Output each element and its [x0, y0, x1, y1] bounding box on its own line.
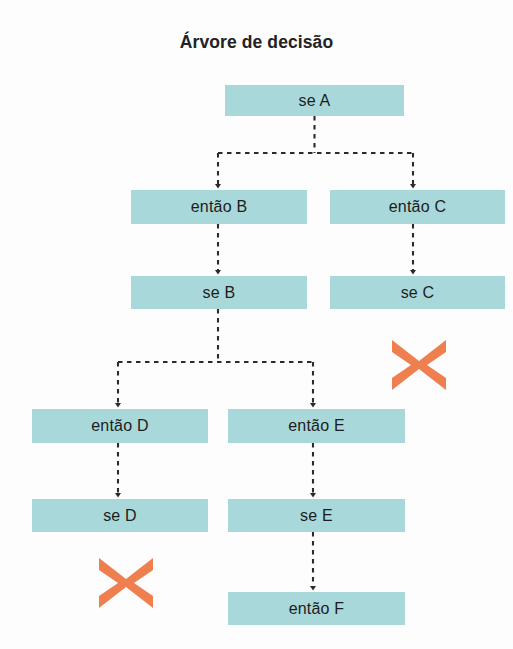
reject-x-icon-se-d	[93, 550, 159, 616]
node-entao-d[interactable]: então D	[32, 409, 208, 443]
node-se-d[interactable]: se D	[32, 499, 208, 532]
node-entao-e[interactable]: então E	[228, 409, 405, 443]
decision-tree-diagram: Árvore de decisão	[0, 0, 513, 649]
node-entao-b[interactable]: então B	[131, 190, 307, 224]
node-entao-f[interactable]: então F	[228, 592, 405, 625]
node-se-c[interactable]: se C	[330, 276, 505, 309]
node-se-e[interactable]: se E	[228, 499, 405, 532]
reject-x-icon-se-c	[386, 332, 452, 398]
node-se-b[interactable]: se B	[131, 276, 307, 309]
node-se-a[interactable]: se A	[225, 85, 404, 116]
node-entao-c[interactable]: então C	[330, 190, 505, 224]
page-title: Árvore de decisão	[0, 32, 513, 53]
